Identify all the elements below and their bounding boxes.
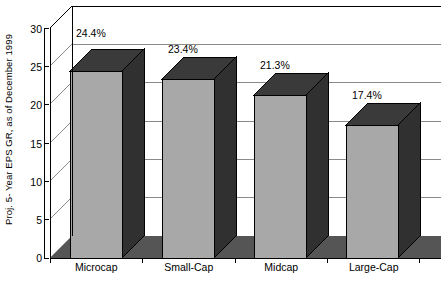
- x-axis-label: Small-Cap: [143, 262, 236, 280]
- bar-small-cap: [162, 57, 236, 258]
- data-label-small-cap: 23.4%: [168, 44, 198, 55]
- plot-area: [0, 0, 441, 286]
- bar-microcap: [70, 49, 144, 258]
- bar-large-cap: [346, 103, 420, 258]
- bar-midcap: [254, 73, 328, 258]
- bar-chart: Proj. 5- Year EPS GR, as of December 199…: [0, 0, 441, 286]
- x-axis-labels: Microcap Small-Cap Midcap Large-Cap: [50, 262, 420, 280]
- data-label-midcap: 21.3%: [260, 60, 290, 71]
- data-label-large-cap: 17.4%: [352, 90, 382, 101]
- data-label-microcap: 24.4%: [76, 28, 106, 39]
- x-axis-label: Microcap: [50, 262, 143, 280]
- x-axis-label: Midcap: [235, 262, 328, 280]
- x-axis-label: Large-Cap: [328, 262, 421, 280]
